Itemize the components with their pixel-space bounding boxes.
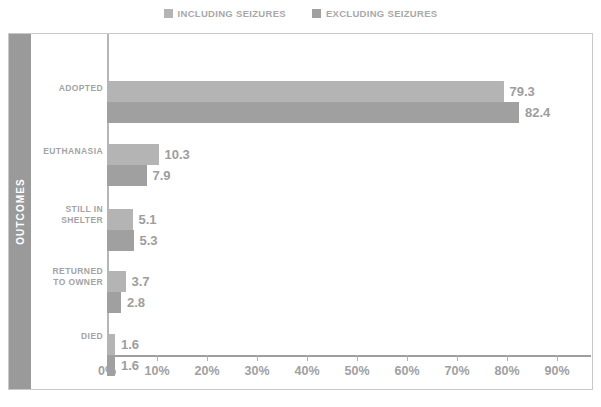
category-label-returned-to-owner: RETURNED TO OWNER xyxy=(31,266,103,288)
bar-value-label-still-in-shelter-excluding: 5.3 xyxy=(140,233,158,248)
x-axis-tick xyxy=(357,355,358,361)
category-label-line1: DIED xyxy=(31,331,103,342)
bar-value-label-euthanasia-excluding: 7.9 xyxy=(153,168,171,183)
x-axis-tick-label: 60% xyxy=(382,364,432,378)
x-axis-tick-label: 10% xyxy=(132,364,182,378)
bar-died-excluding xyxy=(107,355,115,376)
square-swatch-icon xyxy=(312,9,321,18)
legend-entry-including: INCLUDING SEIZURES xyxy=(164,8,286,19)
bar-value-label-euthanasia-including: 10.3 xyxy=(165,147,190,162)
bar-value-label-adopted-including: 79.3 xyxy=(510,84,535,99)
category-label-line1: EUTHANASIA xyxy=(31,146,103,157)
category-label-died: DIED xyxy=(31,331,103,342)
bar-value-label-adopted-excluding: 82.4 xyxy=(525,105,550,120)
category-label-still-in-shelter: STILL IN SHELTER xyxy=(31,204,103,226)
bar-value-label-returned-to-owner-including: 3.7 xyxy=(132,274,150,289)
x-axis-tick xyxy=(307,355,308,361)
x-axis-tick-label: 70% xyxy=(432,364,482,378)
legend-entry-excluding: EXCLUDING SEIZURES xyxy=(312,8,438,19)
x-axis-tick xyxy=(507,355,508,361)
x-axis-tick-label: 30% xyxy=(232,364,282,378)
bar-adopted-including xyxy=(107,81,504,102)
category-label-line1: RETURNED xyxy=(31,266,103,277)
plot-area: ADOPTED EUTHANASIA STILL IN SHELTER RETU… xyxy=(31,34,592,389)
category-label-euthanasia: EUTHANASIA xyxy=(31,146,103,157)
legend-label-including: INCLUDING SEIZURES xyxy=(178,8,286,19)
bar-value-label-died-including: 1.6 xyxy=(121,337,139,352)
bar-returned-to-owner-excluding xyxy=(107,292,121,313)
category-label-adopted: ADOPTED xyxy=(31,83,103,94)
bar-died-including xyxy=(107,334,115,355)
x-axis-tick-label: 90% xyxy=(532,364,582,378)
y-axis-title-band: OUTCOMES xyxy=(9,34,31,389)
bar-euthanasia-including xyxy=(107,144,159,165)
bar-value-label-died-excluding: 1.6 xyxy=(121,358,139,373)
chart-legend: INCLUDING SEIZURES EXCLUDING SEIZURES xyxy=(0,5,601,21)
bar-still-in-shelter-including xyxy=(107,209,133,230)
bar-adopted-excluding xyxy=(107,102,519,123)
category-label-line1: ADOPTED xyxy=(31,83,103,94)
x-axis-tick-label: 80% xyxy=(482,364,532,378)
legend-label-excluding: EXCLUDING SEIZURES xyxy=(326,8,438,19)
x-axis-tick-label: 40% xyxy=(282,364,332,378)
bar-euthanasia-excluding xyxy=(107,165,147,186)
category-label-line2: TO OWNER xyxy=(31,277,103,288)
category-label-line2: SHELTER xyxy=(31,215,103,226)
bar-returned-to-owner-including xyxy=(107,271,126,292)
y-axis-title: OUTCOMES xyxy=(15,178,26,245)
x-axis-tick xyxy=(257,355,258,361)
category-label-line1: STILL IN xyxy=(31,204,103,215)
x-axis-tick xyxy=(407,355,408,361)
x-axis-tick xyxy=(207,355,208,361)
x-axis-tick-label: 20% xyxy=(182,364,232,378)
bar-value-label-returned-to-owner-excluding: 2.8 xyxy=(127,295,145,310)
x-axis-tick xyxy=(457,355,458,361)
x-axis-tick-label: 50% xyxy=(332,364,382,378)
x-axis-tick xyxy=(157,355,158,361)
x-axis-tick xyxy=(557,355,558,361)
bar-still-in-shelter-excluding xyxy=(107,230,134,251)
square-swatch-icon xyxy=(164,9,173,18)
x-axis-baseline xyxy=(107,355,591,357)
bar-value-label-still-in-shelter-including: 5.1 xyxy=(139,212,157,227)
